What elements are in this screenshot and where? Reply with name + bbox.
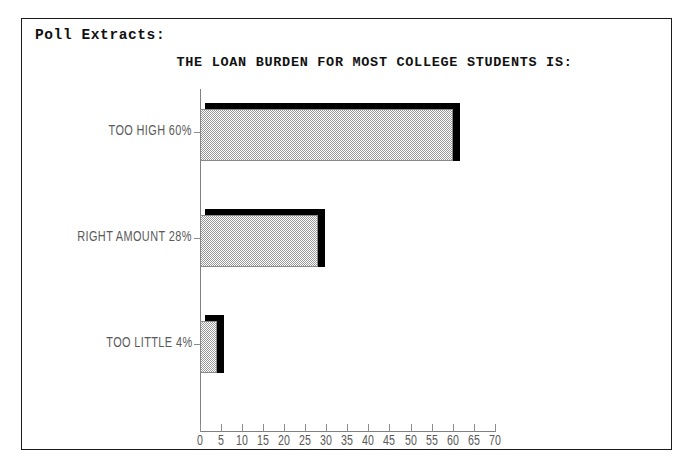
x-axis-tick bbox=[347, 424, 348, 432]
bar-side-face bbox=[217, 315, 224, 373]
x-axis-tick bbox=[221, 424, 222, 432]
x-axis-tick-label: 40 bbox=[362, 432, 374, 448]
poll-extracts-panel: Poll Extracts: THE LOAN BURDEN FOR MOST … bbox=[21, 18, 672, 450]
x-axis-tick-label: 0 bbox=[197, 432, 203, 448]
y-axis-category-label: RIGHT AMOUNT 28% bbox=[78, 228, 192, 244]
x-axis-tick-label: 30 bbox=[320, 432, 332, 448]
x-axis-tick-label: 35 bbox=[341, 432, 353, 448]
x-axis-tick-label: 10 bbox=[236, 432, 248, 448]
x-axis-tick bbox=[432, 424, 433, 432]
x-axis-tick bbox=[200, 424, 201, 432]
bar-front-face bbox=[200, 109, 453, 161]
bar-right-amount bbox=[200, 209, 325, 267]
y-axis-tick bbox=[194, 132, 201, 133]
x-axis-tick-label: 20 bbox=[278, 432, 290, 448]
y-axis-tick bbox=[194, 238, 201, 239]
x-axis-tick bbox=[368, 424, 369, 432]
bar-geometry bbox=[200, 103, 460, 161]
bar-geometry bbox=[200, 209, 325, 267]
x-axis-tick bbox=[305, 424, 306, 432]
x-axis-tick bbox=[242, 424, 243, 432]
y-axis-tick bbox=[194, 344, 201, 345]
x-axis-tick bbox=[389, 424, 390, 432]
x-axis-tick-label: 25 bbox=[299, 432, 311, 448]
bar-front-face bbox=[200, 215, 318, 267]
bar-geometry bbox=[200, 315, 224, 373]
bar-too-little bbox=[200, 315, 224, 373]
x-axis-tick bbox=[284, 424, 285, 432]
bar-side-face bbox=[453, 103, 460, 161]
y-axis-category-label: TOO LITTLE 4% bbox=[106, 334, 192, 350]
bar-chart-plot-area: TOO HIGH 60%RIGHT AMOUNT 28%TOO LITTLE 4… bbox=[22, 19, 673, 449]
x-axis-tick-label: 15 bbox=[257, 432, 269, 448]
x-axis-tick-label: 65 bbox=[468, 432, 480, 448]
x-axis-tick-label: 5 bbox=[218, 432, 224, 448]
y-axis-category-label: TOO HIGH 60% bbox=[109, 122, 192, 138]
x-axis-tick-label: 55 bbox=[426, 432, 438, 448]
x-axis-tick bbox=[453, 424, 454, 432]
x-axis-tick-label: 60 bbox=[447, 432, 459, 448]
x-axis-tick bbox=[263, 424, 264, 432]
x-axis-tick-label: 50 bbox=[405, 432, 417, 448]
bar-front-face bbox=[200, 321, 217, 373]
bar-too-high bbox=[200, 103, 460, 161]
x-axis-tick-label: 70 bbox=[489, 432, 501, 448]
bar-side-face bbox=[318, 209, 325, 267]
x-axis-tick bbox=[326, 424, 327, 432]
x-axis-tick bbox=[411, 424, 412, 432]
x-axis-tick-label: 45 bbox=[384, 432, 396, 448]
x-axis-tick bbox=[495, 424, 496, 432]
x-axis-tick bbox=[474, 424, 475, 432]
